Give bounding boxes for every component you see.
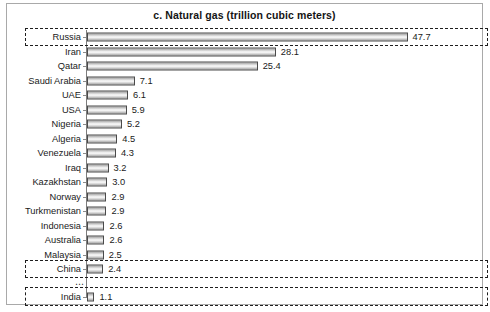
chart-title: c. Natural gas (trillion cubic meters) <box>7 9 482 21</box>
bar <box>87 149 116 158</box>
category-label: Malaysia <box>7 250 81 260</box>
bar-value-label: 1.1 <box>99 292 112 302</box>
axis-tick <box>83 95 86 96</box>
category-label: India <box>7 292 81 302</box>
bar-value-label: 5.2 <box>127 119 140 129</box>
bar-value-label: 25.4 <box>263 61 281 71</box>
bar <box>87 265 103 274</box>
category-label: Algeria <box>7 134 81 144</box>
bar-value-label: 4.3 <box>121 148 134 158</box>
bar-row-kazakhstan: Kazakhstan3.0 <box>7 175 484 190</box>
bar-row-norway: Norway2.9 <box>7 190 484 205</box>
axis-tick <box>83 124 86 125</box>
axis-tick <box>83 182 86 183</box>
category-label: Turkmenistan <box>7 206 81 216</box>
bar-value-label: 2.9 <box>111 206 124 216</box>
bar <box>87 192 106 201</box>
bar-value-label: 6.1 <box>133 90 146 100</box>
category-label: UAE <box>7 90 81 100</box>
bar-value-label: 2.6 <box>109 235 122 245</box>
bar <box>87 134 117 143</box>
bar-chart-plot-area: Russia47.7Iran28.1Qatar25.4Saudi Arabia7… <box>7 28 484 304</box>
axis-tick <box>83 255 86 256</box>
axis-tick <box>83 240 86 241</box>
axis-tick <box>83 139 86 140</box>
bar-value-label: 5.9 <box>132 105 145 115</box>
category-label: Norway <box>7 192 81 202</box>
axis-tick <box>83 153 86 154</box>
axis-tick <box>83 197 86 198</box>
bar <box>87 120 122 129</box>
category-label: China <box>7 264 81 274</box>
category-label: Saudi Arabia <box>7 76 81 86</box>
bar <box>87 105 127 114</box>
bar-row-russia: Russia47.7 <box>7 30 484 45</box>
bar-row-venezuela: Venezuela4.3 <box>7 146 484 161</box>
axis-tick <box>83 226 86 227</box>
chart-frame: c. Natural gas (trillion cubic meters) R… <box>6 3 483 305</box>
category-label: Iran <box>7 47 81 57</box>
bar <box>87 292 94 301</box>
bar-value-label: 2.9 <box>111 192 124 202</box>
bar <box>87 163 109 172</box>
axis-tick <box>83 52 86 53</box>
bar-row-nigeria: Nigeria5.2 <box>7 117 484 132</box>
axis-tick <box>83 269 86 270</box>
axis-tick <box>83 81 86 82</box>
category-label: Nigeria <box>7 119 81 129</box>
bar <box>87 76 135 85</box>
category-label: Indonesia <box>7 221 81 231</box>
category-label: Venezuela <box>7 148 81 158</box>
category-label: Kazakhstan <box>7 177 81 187</box>
axis-tick <box>83 110 86 111</box>
bar-row-indonesia: Indonesia2.6 <box>7 219 484 234</box>
bar-row-iraq: Iraq3.2 <box>7 161 484 176</box>
bar <box>87 221 104 230</box>
bar-row-turkmenistan: Turkmenistan2.9 <box>7 204 484 219</box>
axis-tick <box>83 211 86 212</box>
bar-value-label: 3.2 <box>114 163 127 173</box>
bar-row-india: India1.1 <box>7 290 484 305</box>
bar <box>87 236 104 245</box>
bar-row-iran: Iran28.1 <box>7 45 484 60</box>
bar-row-qatar: Qatar25.4 <box>7 59 484 74</box>
bar-row-usa: USA5.9 <box>7 103 484 118</box>
bar-value-label: 2.6 <box>109 221 122 231</box>
bar-value-label: 4.5 <box>122 134 135 144</box>
bar-row-algeria: Algeria4.5 <box>7 132 484 147</box>
category-label: Iraq <box>7 163 81 173</box>
bar-value-label: 3.0 <box>112 177 125 187</box>
bar <box>87 207 106 216</box>
bar-value-label: 2.5 <box>109 250 122 260</box>
bar-row-uae: UAE6.1 <box>7 88 484 103</box>
bar <box>87 178 107 187</box>
axis-break-ellipsis: ⋯ <box>69 280 91 289</box>
bar <box>87 33 408 42</box>
bar <box>87 47 276 56</box>
category-label: USA <box>7 105 81 115</box>
axis-tick <box>83 66 86 67</box>
bar-row-saudi-arabia: Saudi Arabia7.1 <box>7 74 484 89</box>
axis-tick <box>83 37 86 38</box>
category-label: Russia <box>7 32 81 42</box>
category-label: Australia <box>7 235 81 245</box>
bar-row-malaysia: Malaysia2.5 <box>7 248 484 263</box>
bar <box>87 91 128 100</box>
axis-tick <box>83 168 86 169</box>
axis-tick <box>83 297 86 298</box>
bar-row-australia: Australia2.6 <box>7 233 484 248</box>
bar-row-china: China2.4 <box>7 262 484 277</box>
category-label: Qatar <box>7 61 81 71</box>
bar-value-label: 7.1 <box>140 76 153 86</box>
bar-value-label: 47.7 <box>413 32 431 42</box>
bar <box>87 62 258 71</box>
bar-value-label: 2.4 <box>108 264 121 274</box>
bar-value-label: 28.1 <box>281 47 299 57</box>
bar <box>87 250 104 259</box>
